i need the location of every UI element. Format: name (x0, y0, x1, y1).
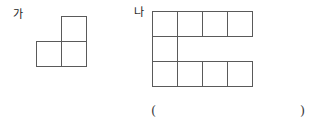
figure-label-na: 나 (134, 7, 144, 18)
grid-cell (152, 36, 178, 62)
worksheet-canvas: 가 나 ( ) (0, 0, 328, 132)
grid-cell (61, 41, 87, 67)
grid-cell (177, 11, 203, 37)
grid-cell (227, 11, 253, 37)
figure-label-ga: 가 (13, 9, 23, 20)
figure-ga (36, 16, 88, 68)
grid-cell (152, 11, 178, 37)
grid-cell (227, 61, 253, 87)
answer-open-paren: ( (151, 104, 156, 117)
answer-close-paren: ) (300, 104, 305, 117)
grid-cell (202, 61, 228, 87)
grid-cell (36, 41, 62, 67)
grid-cell (152, 61, 178, 87)
grid-cell (202, 11, 228, 37)
grid-cell (61, 16, 87, 42)
figure-na (152, 11, 254, 89)
grid-cell (177, 61, 203, 87)
